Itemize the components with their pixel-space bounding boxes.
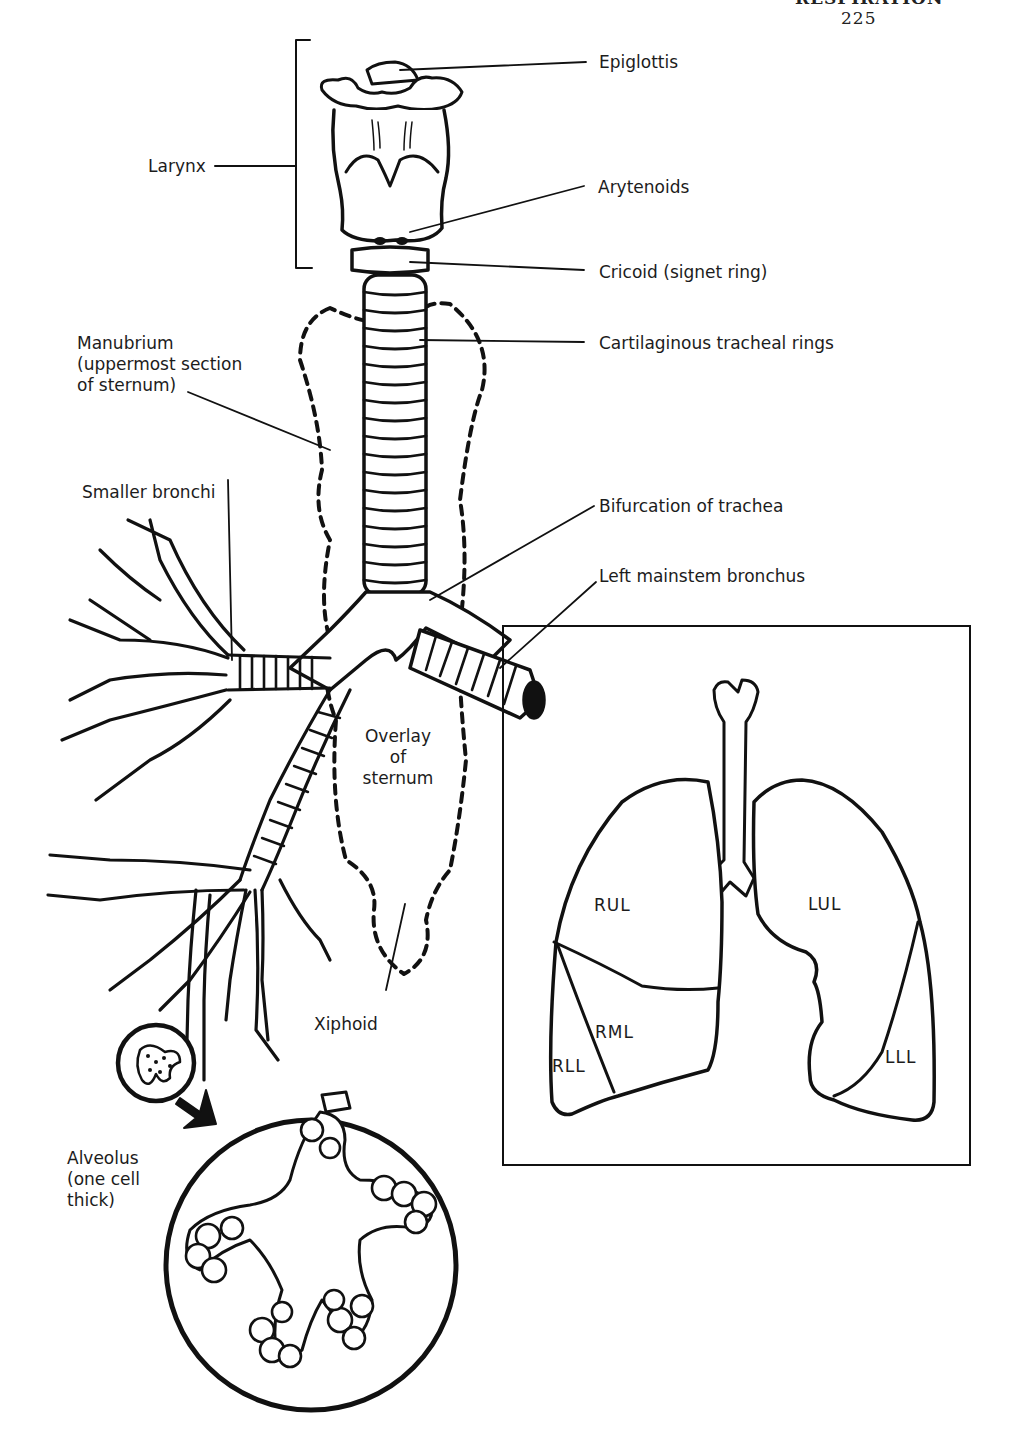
lobe-label-rml: RML xyxy=(595,1022,634,1042)
lobe-label-lul: LUL xyxy=(808,894,842,914)
label-overlay-sternum: Overlay of sternum xyxy=(358,726,438,789)
label-bifurcation: Bifurcation of trachea xyxy=(599,496,783,517)
label-smaller-bronchi: Smaller bronchi xyxy=(82,482,216,503)
label-alveolus: Alveolus (one cell thick) xyxy=(67,1148,140,1211)
larynx-bracket xyxy=(215,40,312,268)
label-arytenoids: Arytenoids xyxy=(598,177,689,198)
label-left-mainstem-bronchus: Left mainstem bronchus xyxy=(599,566,805,587)
label-epiglottis: Epiglottis xyxy=(599,52,678,73)
lobe-label-rll: RLL xyxy=(552,1056,586,1076)
lung-lobes-inset: RUL RML RLL LUL LLL xyxy=(502,625,971,1166)
label-cricoid: Cricoid (signet ring) xyxy=(599,262,767,283)
label-larynx: Larynx xyxy=(148,156,206,177)
lobe-label-rul: RUL xyxy=(594,895,631,915)
label-tracheal-rings: Cartilaginous tracheal rings xyxy=(599,333,834,354)
label-manubrium: Manubrium (uppermost section of sternum) xyxy=(77,333,242,396)
alveolus-small-view xyxy=(118,1025,194,1101)
larynx xyxy=(321,62,462,273)
right-bronchial-tree xyxy=(48,520,350,1080)
magnify-arrow-icon xyxy=(176,1090,216,1128)
trachea xyxy=(364,275,426,595)
label-xiphoid: Xiphoid xyxy=(314,1014,378,1035)
alveolus-large-view xyxy=(166,1092,456,1410)
lobe-label-lll: LLL xyxy=(885,1047,916,1067)
lungs-illustration xyxy=(504,627,973,1168)
